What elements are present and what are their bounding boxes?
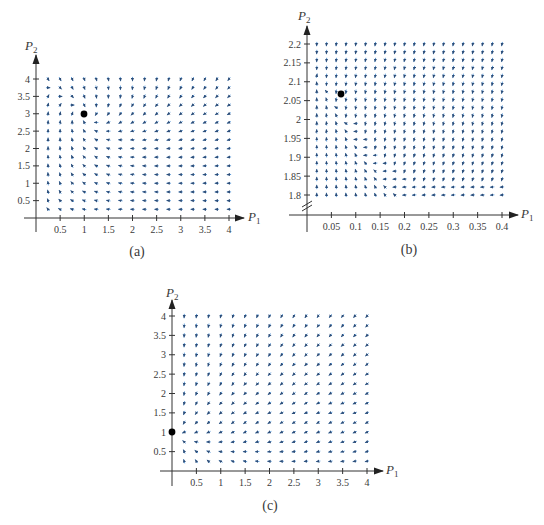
x-tick-label: 0.15 — [371, 221, 389, 232]
field-arrow — [168, 86, 170, 90]
field-arrow — [227, 113, 231, 115]
field-arrow — [365, 106, 366, 110]
field-arrow — [208, 362, 209, 366]
field-arrow — [355, 90, 356, 94]
field-arrow — [341, 324, 344, 327]
field-arrow — [83, 129, 85, 133]
field-arrow — [404, 145, 405, 149]
field-arrow — [355, 82, 356, 86]
field-arrow — [204, 86, 206, 89]
field-arrow — [482, 66, 483, 70]
field-arrow — [385, 113, 386, 117]
field-arrow — [443, 106, 444, 110]
x-tick-label: 0.2 — [398, 221, 411, 232]
field-arrow — [433, 129, 434, 133]
field-arrow — [58, 208, 62, 210]
field-arrow — [385, 90, 386, 94]
field-arrow — [492, 58, 493, 62]
field-arrow — [341, 383, 345, 385]
field-arrow — [168, 77, 169, 81]
field-arrow — [384, 153, 385, 157]
x-tick-label: 4 — [227, 224, 232, 235]
field-arrow — [355, 193, 356, 197]
field-arrow — [118, 165, 122, 166]
x-tick-label: 0.25 — [420, 221, 438, 232]
field-arrow — [219, 451, 223, 452]
field-arrow — [292, 402, 296, 404]
field-arrow — [292, 373, 295, 376]
field-arrow — [404, 50, 405, 54]
field-arrow — [316, 441, 320, 442]
field-arrow — [385, 98, 386, 102]
field-arrow — [472, 42, 473, 46]
field-arrow — [355, 161, 356, 165]
field-arrow — [463, 113, 464, 117]
field-arrow — [292, 363, 295, 366]
field-arrow — [502, 113, 503, 117]
field-arrow — [414, 106, 415, 110]
field-arrow — [82, 209, 86, 210]
field-arrow — [304, 431, 308, 433]
field-arrow — [83, 182, 86, 184]
field-arrow — [443, 42, 444, 46]
equilibrium-point-c — [169, 429, 176, 436]
y-tick-label: 3 — [161, 349, 166, 360]
field-arrow — [268, 353, 270, 357]
y-tick-label: 1.5 — [154, 407, 167, 418]
field-arrow — [341, 412, 345, 413]
field-arrow — [195, 450, 198, 453]
field-arrow — [453, 145, 454, 149]
field-arrow — [366, 324, 369, 327]
field-arrow — [414, 177, 415, 181]
field-arrow — [292, 382, 295, 385]
axes-b: 0.050.10.150.20.250.30.350.41.81.851.91.… — [284, 26, 519, 232]
y-tick-label: 1 — [25, 178, 30, 189]
field-arrow — [443, 129, 444, 133]
field-arrow — [167, 103, 170, 106]
field-arrow — [346, 177, 347, 181]
field-arrow — [220, 333, 221, 337]
field-arrow — [208, 392, 210, 396]
field-arrow — [423, 129, 424, 133]
field-arrow — [414, 82, 415, 86]
field-arrow — [404, 121, 405, 125]
field-arrow — [196, 324, 197, 328]
field-arrow — [131, 112, 134, 115]
y-axis-label-c: P2 — [165, 285, 178, 302]
field-arrow — [305, 373, 308, 376]
field-arrow — [215, 95, 218, 98]
field-arrow — [404, 58, 405, 62]
field-arrow — [317, 373, 320, 376]
field-arrow — [72, 129, 73, 133]
field-arrow — [227, 104, 230, 106]
field-arrow — [106, 139, 110, 140]
field-arrow — [404, 98, 405, 102]
field-arrow — [375, 137, 376, 141]
field-arrow — [305, 324, 307, 328]
field-arrow — [71, 155, 73, 159]
field-arrow — [204, 77, 206, 81]
field-arrow — [215, 139, 219, 140]
field-arrow — [345, 130, 347, 134]
field-arrow — [353, 441, 357, 442]
field-arrow — [355, 169, 356, 173]
field-arrow — [394, 82, 395, 86]
field-arrow — [492, 106, 493, 110]
field-arrow — [155, 130, 159, 131]
field-arrow — [385, 58, 386, 62]
field-arrow — [267, 441, 271, 442]
field-arrow — [196, 392, 197, 396]
field-arrow — [184, 459, 185, 463]
field-arrow — [502, 98, 503, 102]
field-arrow — [94, 209, 98, 210]
field-arrow — [220, 392, 222, 396]
field-arrow — [341, 461, 345, 462]
field-arrow — [462, 129, 463, 133]
field-arrow — [132, 94, 133, 98]
field-arrow — [424, 98, 425, 102]
field-arrow — [183, 421, 185, 425]
field-arrow — [155, 103, 158, 106]
x-axis-label-a: P1 — [247, 209, 260, 226]
field-arrow — [443, 98, 444, 102]
field-arrow — [404, 169, 405, 173]
